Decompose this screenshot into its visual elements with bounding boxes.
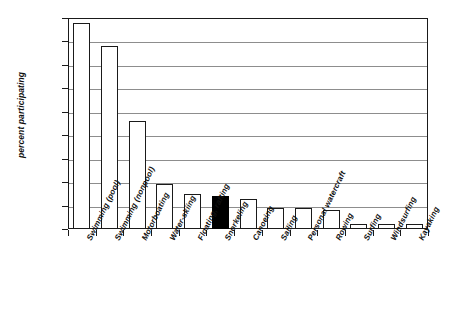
y-axis-title: percent participating [16,50,26,180]
x-axis-tick-mark [68,230,69,236]
bars-group [68,18,428,229]
bar-surfing[interactable] [350,224,367,229]
bar-kayaking[interactable] [406,224,423,229]
bar-chart: percent participating 45%40%35%30%25%20%… [0,0,451,318]
bar-swimming-pool[interactable] [73,23,90,229]
